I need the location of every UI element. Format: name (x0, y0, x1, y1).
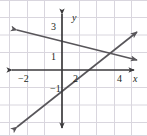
x-tick-label-minus-2: −2 (18, 74, 29, 84)
y-tick-label-3: 3 (51, 22, 56, 32)
coordinate-graph: 3 1 −1 −2 2 4 y x (0, 0, 147, 136)
x-tick-label-4: 4 (117, 74, 122, 84)
x-tick-label-2: 2 (73, 74, 78, 84)
x-axis-label: x (133, 74, 137, 84)
y-tick-label-minus-1: −1 (50, 84, 61, 94)
y-tick-label-1: 1 (51, 52, 56, 62)
y-axis-label: y (72, 13, 76, 23)
